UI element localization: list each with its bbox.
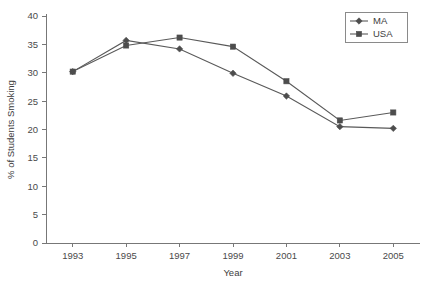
y-tick-label: 30: [27, 67, 38, 78]
data-point-usa-1993: [70, 69, 75, 74]
series-line-ma: [73, 40, 394, 128]
y-tick-label: 20: [27, 124, 38, 135]
y-tick-label: 25: [27, 96, 38, 107]
legend-label-ma: MA: [373, 15, 388, 26]
legend-label-usa: USA: [373, 28, 393, 39]
x-tick-label: 2001: [276, 250, 297, 261]
x-tick-label: 2003: [329, 250, 350, 261]
data-point-ma-1997: [176, 46, 182, 52]
y-tick-label: 5: [33, 209, 38, 220]
y-tick-label: 40: [27, 10, 38, 21]
x-tick-label: 2005: [383, 250, 404, 261]
x-tick-label: 1999: [222, 250, 243, 261]
y-tick-label: 0: [33, 237, 38, 248]
line-chart: 0510152025303540199319951997199920012003…: [0, 0, 442, 284]
y-axis-title: % of Students Smoking: [5, 80, 16, 179]
data-point-usa-2005: [391, 110, 396, 115]
chart-canvas: 0510152025303540199319951997199920012003…: [0, 0, 442, 284]
data-point-usa-1995: [124, 43, 129, 48]
y-tick-label: 35: [27, 39, 38, 50]
data-point-usa-1999: [230, 44, 235, 49]
data-point-usa-2001: [284, 79, 289, 84]
data-point-usa-1997: [177, 35, 182, 40]
data-point-ma-1999: [230, 70, 236, 76]
x-axis-title: Year: [223, 267, 242, 278]
x-tick-label: 1993: [62, 250, 83, 261]
x-tick-label: 1997: [169, 250, 190, 261]
y-tick-label: 15: [27, 152, 38, 163]
data-point-ma-2001: [283, 93, 289, 99]
data-point-ma-2003: [337, 123, 343, 129]
x-tick-label: 1995: [116, 250, 137, 261]
chart-legend: MAUSA: [345, 12, 407, 42]
y-tick-label: 10: [27, 181, 38, 192]
data-point-usa-2003: [337, 118, 342, 123]
series-line-usa: [73, 38, 394, 121]
data-point-ma-2005: [390, 125, 396, 131]
legend-marker-usa: [356, 31, 361, 36]
